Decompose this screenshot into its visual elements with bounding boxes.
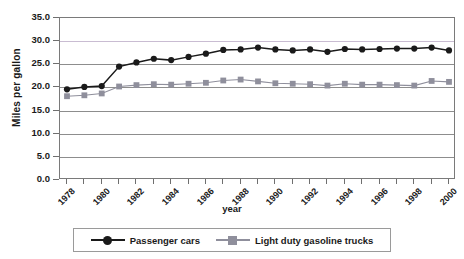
data-point (64, 86, 70, 92)
data-point (220, 78, 226, 84)
data-point (307, 81, 313, 87)
plot-area (59, 17, 455, 179)
y-tick-label: 20.0 (0, 81, 50, 91)
data-point (376, 46, 382, 52)
data-point (238, 77, 244, 83)
data-point (81, 92, 87, 98)
data-point (324, 49, 330, 55)
x-tick (413, 179, 414, 184)
data-point (151, 56, 157, 62)
x-tick (118, 179, 119, 184)
x-tick (274, 179, 275, 184)
y-tick-label: 15.0 (0, 105, 50, 115)
chart-figure: Miles per gallon 0.05.010.015.020.025.03… (0, 0, 464, 259)
x-tick (222, 179, 223, 184)
x-tick (396, 179, 397, 184)
chart-legend: Passenger cars Light duty gasoline truck… (73, 228, 391, 252)
data-point (151, 81, 157, 87)
x-tick (188, 179, 189, 184)
data-point (272, 46, 278, 52)
legend-label-0: Passenger cars (130, 235, 200, 246)
x-tick (101, 179, 102, 184)
data-point (342, 46, 348, 52)
legend-item-light-duty-gasoline-trucks[interactable]: Light duty gasoline trucks (216, 235, 373, 246)
data-point (429, 45, 435, 51)
x-tick (344, 179, 345, 184)
data-point (168, 57, 174, 63)
data-point (429, 78, 435, 84)
legend-item-passenger-cars[interactable]: Passenger cars (91, 235, 200, 246)
data-point (377, 82, 383, 88)
y-tick-label: 10.0 (0, 128, 50, 138)
data-point (99, 83, 105, 89)
x-tick (153, 179, 154, 184)
x-tick (361, 179, 362, 184)
x-tick (292, 179, 293, 184)
data-point (342, 81, 348, 87)
x-tick (379, 179, 380, 184)
data-point (394, 45, 400, 51)
x-tick (309, 179, 310, 184)
y-tick-label: 35.0 (0, 12, 50, 22)
legend-key-square (216, 235, 250, 245)
data-point (186, 81, 192, 87)
x-tick (66, 179, 67, 184)
legend-key-circle (91, 235, 125, 245)
data-point (168, 82, 174, 88)
data-point (134, 82, 140, 88)
data-point (99, 91, 105, 97)
x-tick (257, 179, 258, 184)
data-point (359, 46, 365, 52)
data-point (272, 80, 278, 86)
data-point (446, 47, 452, 53)
data-point (411, 45, 417, 51)
y-tick-label: 30.0 (0, 35, 50, 45)
data-point (185, 54, 191, 60)
data-point (81, 84, 87, 90)
data-point (116, 84, 122, 90)
data-point (133, 59, 139, 65)
data-point (220, 47, 226, 53)
data-point (255, 45, 261, 51)
data-point (411, 83, 417, 89)
data-point (255, 79, 261, 85)
data-point (290, 81, 296, 87)
y-tick-label: 25.0 (0, 58, 50, 68)
data-point (394, 82, 400, 88)
x-tick (431, 179, 432, 184)
data-point (203, 51, 209, 57)
y-tick-label: 0.0 (0, 174, 50, 184)
x-tick (83, 179, 84, 184)
x-tick (326, 179, 327, 184)
data-point (290, 47, 296, 53)
y-tick (53, 179, 59, 180)
data-point (238, 46, 244, 52)
x-tick (205, 179, 206, 184)
data-point (446, 79, 452, 85)
data-point (116, 64, 122, 70)
data-point (307, 46, 313, 52)
data-point (203, 80, 209, 86)
data-point (325, 83, 331, 89)
x-tick (240, 179, 241, 184)
data-point (359, 82, 365, 88)
x-tick (135, 179, 136, 184)
data-point (64, 93, 70, 99)
series-layer (60, 18, 456, 180)
x-tick (170, 179, 171, 184)
x-tick (448, 179, 449, 184)
x-axis-title: year (0, 203, 464, 214)
legend-label-1: Light duty gasoline trucks (255, 235, 373, 246)
y-tick-label: 5.0 (0, 151, 50, 161)
